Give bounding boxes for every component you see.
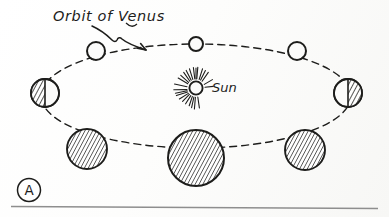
sun-label: Sun [212, 80, 237, 95]
sun-symbol [174, 67, 213, 109]
panel-label: A [18, 179, 41, 202]
orbit-label: Orbit of Venus [53, 8, 165, 24]
baseline-rule [11, 207, 378, 209]
venus-position-top-right [288, 42, 306, 60]
venus-position-left-quadrature [31, 79, 59, 107]
venus-position-inferior-conjunction-bottom [168, 130, 224, 186]
panel-label-text: A [24, 182, 34, 198]
venus-position-top-left [87, 42, 105, 60]
venus-position-bottom-left [67, 129, 107, 169]
venus-position-right-quadrature [334, 79, 362, 107]
venus-orbit-diagram: Sun [0, 0, 389, 217]
venus-position-superior-conjunction-top-center [189, 37, 203, 51]
venus-position-bottom-right [285, 130, 325, 170]
venus-orbit-figure: Sun [0, 0, 389, 217]
